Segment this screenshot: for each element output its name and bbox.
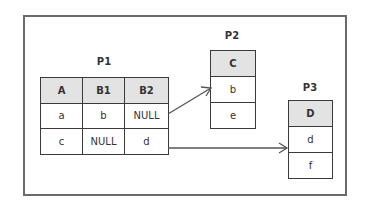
arrow-p1-to-p2 [168,87,211,114]
arrow-p1-to-p3 [168,143,287,153]
arrows-layer [0,0,368,208]
